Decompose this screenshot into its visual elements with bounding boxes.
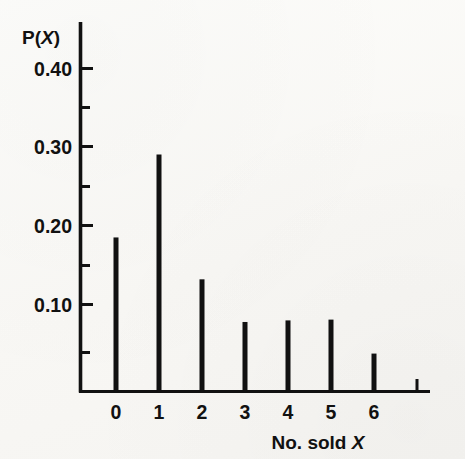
data-series-spikes [114, 155, 377, 392]
y-axis-title-main: P( [22, 27, 42, 48]
x-axis-title: No. sold X [272, 432, 366, 453]
bar-x-1 [157, 155, 162, 392]
x-axis-title-variable: X [351, 432, 366, 453]
x-tick-label-3: 3 [240, 401, 251, 423]
y-tick-label-030: 0.30 [34, 136, 72, 158]
x-axis-title-main: No. sold [272, 432, 352, 453]
probability-distribution-chart: 0.40 0.30 0.20 0.10 P(X) [0, 0, 465, 459]
x-tick-label-5: 5 [326, 401, 337, 423]
x-tick-label-4: 4 [283, 401, 294, 423]
bar-x-2 [200, 279, 205, 391]
y-tick-label-010: 0.10 [34, 294, 72, 316]
x-tick-label-6: 6 [369, 401, 380, 423]
figure-root: 0.40 0.30 0.20 0.10 P(X) [0, 0, 465, 459]
y-tick-labels-group: 0.40 0.30 0.20 0.10 [34, 58, 72, 316]
y-axis-title-close: ) [54, 27, 60, 48]
x-tick-label-2: 2 [197, 401, 208, 423]
x-tick-label-1: 1 [154, 401, 165, 423]
y-axis-title: P(X) [22, 27, 60, 48]
bar-x-0 [114, 237, 119, 391]
y-tick-label-040: 0.40 [34, 58, 72, 80]
x-tick-label-0: 0 [111, 401, 122, 423]
axes-group [79, 22, 430, 393]
x-tick-labels-group: 0 1 2 3 4 5 6 [111, 401, 380, 423]
y-tick-label-020: 0.20 [34, 215, 72, 237]
